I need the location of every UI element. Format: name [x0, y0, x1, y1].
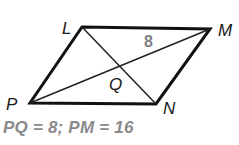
intersection-label-q: Q [109, 75, 122, 94]
vertex-label-n: N [163, 99, 176, 118]
vertex-label-p: P [6, 95, 18, 114]
segment-measure-qm: 8 [144, 33, 153, 50]
vertex-label-l: L [62, 19, 71, 38]
vertex-label-m: M [218, 21, 233, 40]
given-values-caption: PQ = 8; PM = 16 [3, 118, 134, 138]
